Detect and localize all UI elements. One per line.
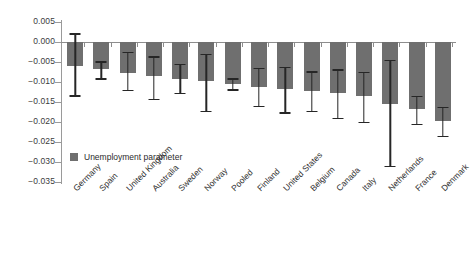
error-cap-upper — [411, 96, 422, 97]
error-cap-upper — [332, 69, 343, 70]
chart-legend: Unemployment parameter — [70, 152, 182, 162]
error-bar — [416, 96, 417, 124]
y-axis-tick-label: 0.005 — [7, 16, 55, 26]
error-cap-lower — [359, 122, 370, 123]
error-bar — [442, 107, 443, 136]
y-axis-tick-label: −0.035 — [7, 176, 55, 186]
error-bar — [363, 72, 364, 122]
y-axis-tick-label: −0.005 — [7, 56, 55, 66]
error-cap-lower — [96, 78, 107, 79]
error-bar — [206, 54, 207, 111]
error-bar — [101, 61, 102, 78]
error-cap-lower — [122, 90, 133, 91]
y-axis-tick-label: −0.020 — [7, 116, 55, 126]
error-bar — [390, 60, 391, 166]
error-cap-upper — [227, 78, 238, 79]
error-cap-upper — [280, 67, 291, 68]
error-cap-upper — [306, 71, 317, 72]
y-axis-tick-label: −0.010 — [7, 76, 55, 86]
error-cap-lower — [253, 106, 264, 107]
bar-group[interactable] — [377, 22, 403, 182]
y-axis-tick-label: −0.015 — [7, 96, 55, 106]
error-bar — [74, 33, 75, 95]
legend-swatch-icon — [70, 153, 78, 161]
error-cap-lower — [385, 166, 396, 167]
y-axis-tick — [55, 102, 61, 103]
error-cap-upper — [201, 54, 212, 55]
bar-group[interactable] — [325, 22, 351, 182]
y-axis-tick-label: −0.025 — [7, 136, 55, 146]
error-cap-upper — [359, 72, 370, 73]
bar-group[interactable] — [351, 22, 377, 182]
y-axis-tick — [55, 182, 61, 183]
bar-group[interactable] — [193, 22, 219, 182]
y-axis-tick — [55, 22, 61, 23]
y-axis-tick — [55, 82, 61, 83]
error-cap-lower — [201, 111, 212, 112]
error-bar — [311, 71, 312, 111]
y-axis-tick — [55, 122, 61, 123]
bar-group[interactable] — [246, 22, 272, 182]
error-bar — [337, 69, 338, 118]
y-axis-tick — [55, 42, 61, 43]
error-cap-lower — [332, 118, 343, 119]
error-cap-lower — [70, 95, 81, 96]
error-cap-lower — [306, 111, 317, 112]
error-cap-upper — [437, 107, 448, 108]
y-axis-tick — [55, 142, 61, 143]
error-cap-upper — [148, 56, 159, 57]
error-bar — [179, 64, 180, 93]
error-cap-lower — [227, 89, 238, 90]
error-cap-upper — [70, 33, 81, 34]
error-cap-upper — [385, 60, 396, 61]
error-cap-lower — [411, 124, 422, 125]
y-axis-tick-label: −0.030 — [7, 156, 55, 166]
error-cap-lower — [437, 136, 448, 137]
error-cap-lower — [148, 99, 159, 100]
error-bar — [127, 52, 128, 90]
legend-label: Unemployment parameter — [84, 152, 182, 162]
error-cap-upper — [96, 61, 107, 62]
error-cap-lower — [280, 112, 291, 113]
y-axis-tick-label: 0.000 — [7, 36, 55, 46]
bar-group[interactable] — [430, 22, 456, 182]
error-bar — [232, 78, 233, 89]
error-bar — [153, 56, 154, 98]
y-axis-tick — [55, 162, 61, 163]
error-cap-lower — [175, 93, 186, 94]
y-axis-tick — [55, 62, 61, 63]
bar-group[interactable] — [272, 22, 298, 182]
error-bar — [285, 67, 286, 113]
bar-group[interactable] — [220, 22, 246, 182]
error-bar — [258, 68, 259, 106]
error-cap-upper — [175, 64, 186, 65]
error-cap-upper — [253, 68, 264, 69]
error-cap-upper — [122, 52, 133, 53]
